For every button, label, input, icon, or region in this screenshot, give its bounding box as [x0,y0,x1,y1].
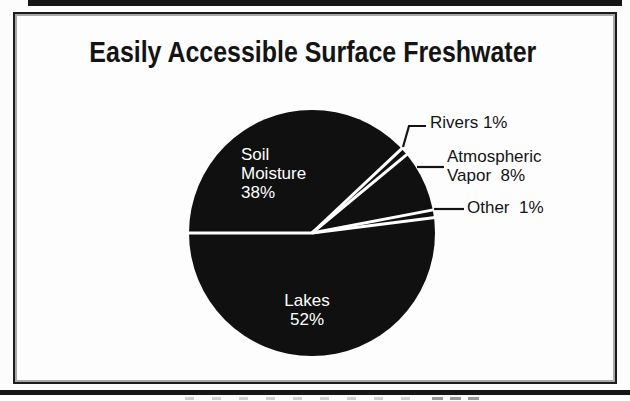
soil-moisture-slice-label: Soil Moisture 38% [241,145,306,202]
other-slice-label: Other 1% [467,198,544,217]
rivers-leader-line [403,126,426,147]
atmospheric-vapor-slice-label: Atmospheric Vapor 8% [447,147,541,185]
lakes-slice-label: Lakes 52% [269,291,345,329]
rivers-slice-label: Rivers 1% [430,113,507,132]
page: Easily Accessible Surface Freshwater Soi… [0,0,630,401]
